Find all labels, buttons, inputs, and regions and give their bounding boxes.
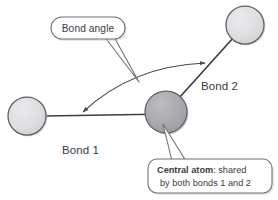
central-atom-callout-line-1-rest: : shared [213,165,246,175]
central-atom-callout-line-2: by both bonds 1 and 2 [160,178,251,188]
central-atom-callout[interactable]: Central atom: shared by both bonds 1 and… [148,124,274,195]
bond-1-label: Bond 1 [62,144,99,156]
bond-angle-callout-tail [104,36,139,82]
central-atom-callout-line-1: Central atom: shared [157,165,246,175]
central-atom-callout-line-1-bold: Central atom [157,165,213,175]
bond-2-label: Bond 2 [201,80,238,92]
diagram-canvas: Bond 1 Bond 2 Bond angle Central atom: s… [0,0,278,200]
top-right-atom [226,6,264,44]
bond-angle-callout[interactable]: Bond angle [51,17,139,82]
bond-angle-callout-label: Bond angle [62,23,115,34]
bond-angle-arc [83,63,205,112]
bond-angle-diagram: Bond 1 Bond 2 Bond angle Central atom: s… [0,0,278,200]
bond-angle-arc-path [83,63,205,112]
left-atom [8,97,46,135]
atoms-group [8,6,264,135]
central-atom [145,91,187,133]
